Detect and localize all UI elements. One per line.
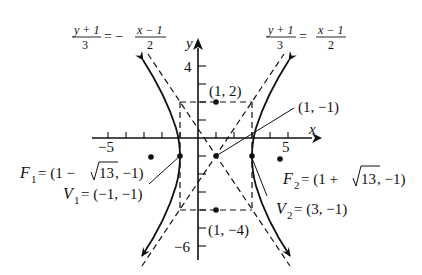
asymptote-right-equation: y + 1 3 = x − 1 2 [266,23,346,52]
svg-text:1: 1 [31,173,37,185]
hyperbola-right-branch [252,60,290,256]
y-axis-label: y [184,35,193,51]
vertex1-label: V 1 = (−1, −1) [63,185,143,206]
svg-text:= (1 +: = (1 + [301,171,338,188]
svg-text:x − 1: x − 1 [136,23,162,37]
y-tick-label-4: 4 [184,59,192,75]
vertex1-leader-line [149,156,180,184]
vertex2-label: V 2 = (3, −1) [276,200,347,221]
svg-text:13: 13 [361,171,376,187]
svg-text:y + 1: y + 1 [73,23,99,37]
svg-text:2: 2 [328,38,334,52]
asymptote-left-equation: y + 1 3 = − x − 1 2 [72,23,166,52]
y-tick-label-neg6: −6 [174,239,190,255]
svg-text:13: 13 [99,165,114,181]
svg-text:= −: = − [104,29,123,44]
focus1-label: F 1 = (1 − 13 , −1) [19,162,143,185]
svg-text:2: 2 [287,209,293,221]
svg-text:=: = [299,29,307,44]
box-bottom-point [213,207,219,213]
svg-text:F: F [19,164,30,181]
hyperbola-left-branch [142,60,180,256]
hyperbola-diagram: y x −5 5 4 −6 (1, 2) (1, −4) (1, −1) F 1… [0,0,422,275]
svg-text:, −1): , −1) [115,165,143,182]
vertex2-point [249,153,255,159]
center-label: (1, −1) [298,99,339,116]
box-bottom-label: (1, −4) [208,222,249,239]
box-top-point [213,99,219,105]
svg-text:= (3, −1): = (3, −1) [294,201,347,218]
svg-text:= (1 −: = (1 − [38,165,75,182]
box-top-label: (1, 2) [209,83,242,100]
y-axis-ticks [198,66,206,246]
svg-text:3: 3 [277,38,283,52]
focus1-point [148,154,154,160]
y-axis [193,38,206,260]
focus2-label: F 2 = (1 + 13 , −1) [282,166,405,191]
svg-text:x − 1: x − 1 [317,23,343,37]
focus2-point [277,156,283,162]
x-tick-label-5: 5 [282,139,290,155]
svg-text:F: F [282,170,293,187]
svg-text:, −1): , −1) [377,171,405,188]
svg-text:1: 1 [74,194,80,206]
svg-text:3: 3 [82,38,88,52]
x-axis-label: x [308,121,316,137]
svg-text:y + 1: y + 1 [267,23,293,37]
x-tick-label-neg5: −5 [98,139,114,155]
svg-text:2: 2 [294,179,300,191]
svg-text:2: 2 [147,38,153,52]
svg-text:= (−1, −1): = (−1, −1) [81,186,143,203]
